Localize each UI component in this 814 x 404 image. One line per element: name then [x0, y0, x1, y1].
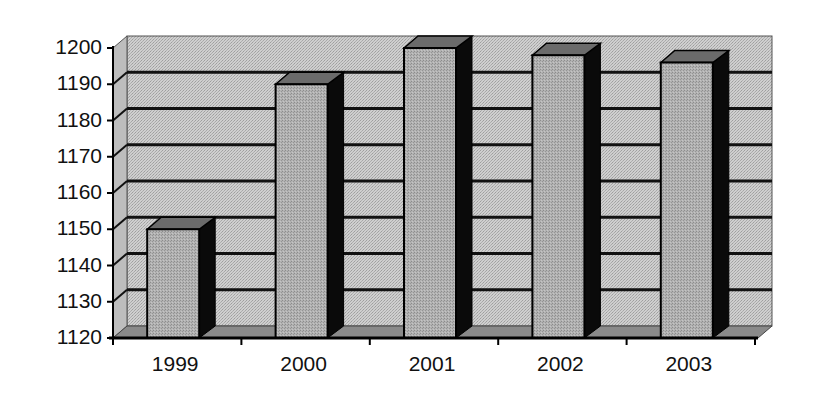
- y-tick-label: 1130: [10, 290, 102, 312]
- x-tick-label: 2000: [254, 353, 354, 375]
- y-tick-label: 1120: [10, 326, 102, 348]
- bar-2001: [404, 36, 472, 338]
- x-tick-label: 2001: [382, 353, 482, 375]
- bar-2000: [276, 72, 344, 338]
- x-tick-label: 2003: [639, 353, 739, 375]
- x-tick-label: 2002: [510, 353, 610, 375]
- bar-2003: [661, 51, 729, 339]
- y-tick-label: 1150: [10, 217, 102, 239]
- y-tick-label: 1190: [10, 72, 102, 94]
- y-tick-label: 1170: [10, 145, 102, 167]
- y-tick-label: 1200: [10, 36, 102, 58]
- x-tick-label: 1999: [125, 353, 225, 375]
- bar-2002: [532, 43, 600, 338]
- bar-chart: 112011301140115011601170118011901200 199…: [0, 0, 814, 404]
- plot-area: [0, 0, 814, 404]
- y-tick-label: 1140: [10, 254, 102, 276]
- y-tick-label: 1180: [10, 109, 102, 131]
- y-tick-label: 1160: [10, 181, 102, 203]
- bar-1999: [147, 217, 215, 338]
